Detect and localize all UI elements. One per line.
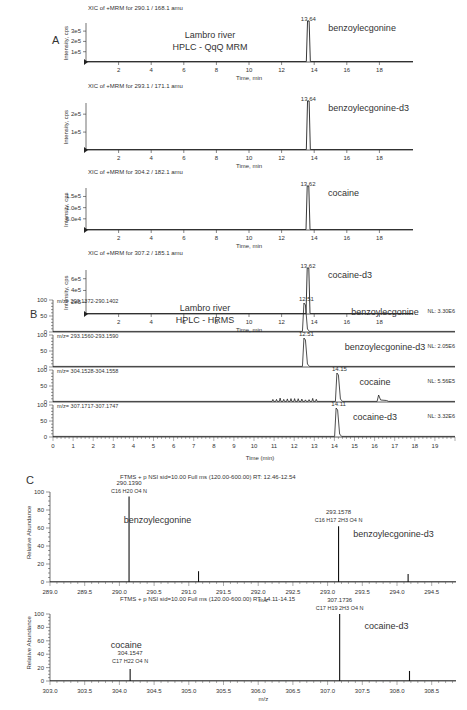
peak-formula: C16 H17 2H3 O4 N <box>315 517 363 523</box>
x-tick-label: 10 <box>246 155 253 161</box>
x-tick-label: 4 <box>150 155 154 161</box>
x-tick-label: 14 <box>311 155 318 161</box>
peak-rt-label: 13.62 <box>300 263 316 269</box>
y-tick-label: 0 <box>44 434 48 440</box>
x-axis-label: Time, min <box>236 75 262 81</box>
figure-canvas: AXIC of +MRM for 290.1 / 168.1 amu1e52e5… <box>0 0 467 710</box>
y-axis-label: Relative Abundance <box>26 505 32 559</box>
compound-label: cocaine <box>359 377 390 387</box>
y-tick-label: 80 <box>37 507 44 513</box>
x-tick-label: 2 <box>92 443 96 449</box>
y-tick-label: 100 <box>34 489 45 495</box>
y-tick-label: 0 <box>41 678 45 684</box>
x-tick-label: 18 <box>376 67 383 73</box>
x-tick-label: 6 <box>182 67 186 73</box>
peak-rt-label: 14.11 <box>331 401 346 407</box>
y-tick-label: 40 <box>37 543 44 549</box>
y-axis-label: Intensity, cps <box>63 192 69 227</box>
y-tick-label: 1e5 <box>71 129 82 135</box>
x-tick-label: 18 <box>376 235 383 241</box>
y-axis-label: Intensity, cps <box>63 26 69 61</box>
x-tick-label: 6 <box>172 443 176 449</box>
x-tick-label: 294.5 <box>424 589 440 595</box>
x-tick-label: 307.5 <box>355 688 371 694</box>
x-tick-label: 16 <box>343 235 350 241</box>
y-tick-label: 50 <box>40 383 47 389</box>
peak-rt-label: 14.15 <box>332 366 348 372</box>
x-tick-label: 12 <box>278 235 285 241</box>
x-tick-label: 2 <box>117 235 121 241</box>
y-tick-label: 50 <box>40 348 47 354</box>
y-tick-label: 100 <box>37 297 48 303</box>
y-tick-label: 100 <box>37 367 48 373</box>
x-axis-label: Time (min) <box>246 455 274 461</box>
peak-mz-label: 304.1547 <box>118 650 144 656</box>
normalization-level: NL: 5.56E5 <box>427 378 455 384</box>
compound-label: benzoylecgonine <box>124 515 192 525</box>
peak-rt-label: 13.64 <box>301 16 317 22</box>
x-tick-label: 4 <box>150 67 154 73</box>
y-tick-label: 100 <box>37 402 48 408</box>
x-tick-label: 305.5 <box>216 688 232 694</box>
x-tick-label: 10 <box>251 443 258 449</box>
x-tick-label: 19 <box>432 443 439 449</box>
peak-rt-label: 12.51 <box>299 296 315 302</box>
x-tick-label: 10 <box>246 235 253 241</box>
x-tick-label: 14 <box>311 319 318 325</box>
normalization-level: NL: 2.05E6 <box>427 343 455 349</box>
x-tick-label: 16 <box>343 155 350 161</box>
x-tick-label: 305.0 <box>181 688 197 694</box>
peak-formula: C16 H20 O4 N <box>111 488 147 494</box>
compound-label: cocaine <box>111 640 142 650</box>
x-tick-label: 10 <box>246 67 253 73</box>
x-tick-label: 291.5 <box>216 589 232 595</box>
x-axis-label: Time, min <box>236 163 262 169</box>
x-tick-label: 18 <box>411 443 418 449</box>
y-axis-label: Intensity, cps <box>63 275 69 310</box>
y-tick-label: 0 <box>41 579 45 585</box>
x-tick-label: 8 <box>215 155 219 161</box>
x-tick-label: 290.0 <box>112 589 128 595</box>
x-tick-label: 304.5 <box>147 688 163 694</box>
y-tick-label: 40 <box>37 651 44 657</box>
x-axis-label: m/z <box>259 696 269 702</box>
x-tick-label: 4 <box>150 235 154 241</box>
y-tick-label: 2e5 <box>71 38 82 44</box>
y-tick-label: 100 <box>37 332 48 338</box>
compound-label: cocaine <box>328 188 359 198</box>
trace-header: XIC of +MRM for 307.2 / 185.1 amu <box>88 250 183 256</box>
normalization-level: NL: 3.30E6 <box>427 308 455 314</box>
x-tick-label: 0 <box>51 443 55 449</box>
trace-header: XIC of +MRM for 290.1 / 168.1 amu <box>88 5 183 11</box>
compound-label: benzoylecgonine <box>351 307 419 317</box>
x-tick-label: 17 <box>391 443 398 449</box>
trace-header: XIC of +MRM for 304.2 / 182.1 amu <box>88 169 183 175</box>
x-tick-label: 14 <box>311 235 318 241</box>
x-tick-label: 5 <box>152 443 156 449</box>
y-tick-label: 3e5 <box>71 28 82 34</box>
x-tick-label: 15 <box>351 443 358 449</box>
y-axis-label: Relative Abundance <box>26 615 32 669</box>
trace-header: m/z= 293.1560-293.1590 <box>57 333 118 339</box>
y-tick-label: 6e5 <box>71 276 82 282</box>
peak-formula: C17 H22 O4 N <box>112 658 148 664</box>
x-tick-label: 13 <box>311 443 318 449</box>
x-tick-label: 10 <box>246 319 253 325</box>
x-tick-label: 303.0 <box>42 688 58 694</box>
y-tick-label: 80 <box>37 624 44 630</box>
spectrum-header: FTMS + p NSI sid=10.00 Full ms (120.00-6… <box>120 596 296 602</box>
y-tick-label: 2e5 <box>71 111 82 117</box>
x-tick-label: 290.5 <box>147 589 163 595</box>
x-tick-label: 16 <box>343 319 350 325</box>
x-tick-label: 12 <box>278 319 285 325</box>
trace-header: m/z= 304.1528-304.1558 <box>57 368 118 374</box>
y-tick-label: 50 <box>40 418 47 424</box>
x-tick-label: 304.0 <box>112 688 128 694</box>
x-tick-label: 306.0 <box>251 688 267 694</box>
x-tick-label: 293.5 <box>355 589 371 595</box>
x-tick-label: 2 <box>117 155 121 161</box>
x-tick-label: 18 <box>376 319 383 325</box>
x-tick-label: 8 <box>215 235 219 241</box>
peak-rt-label: 13.64 <box>301 96 317 102</box>
x-tick-label: 4 <box>132 443 136 449</box>
